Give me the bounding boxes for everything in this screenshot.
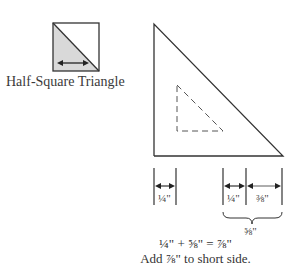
formula-line-1: ¼" + ⅝" = ⅞" xyxy=(0,236,301,252)
brace xyxy=(223,212,282,224)
finished-triangle-dashed xyxy=(177,85,223,131)
seam-allowance-left-label: ¼" xyxy=(158,192,171,204)
seam-allowance-right-label: ¼" xyxy=(227,192,240,204)
formula-line-2: Add ⅞" to short side. xyxy=(0,251,301,267)
half-square-triangle-diagram: Half-Square Triangle ¼" ¼" ⅜" ⅝" ¼" + ⅝"… xyxy=(0,0,301,271)
large-triangle xyxy=(154,24,283,156)
half-square-triangle-icon xyxy=(53,23,99,71)
icon-caption: Half-Square Triangle xyxy=(6,74,125,90)
finished-part-label: ⅜" xyxy=(256,192,269,204)
